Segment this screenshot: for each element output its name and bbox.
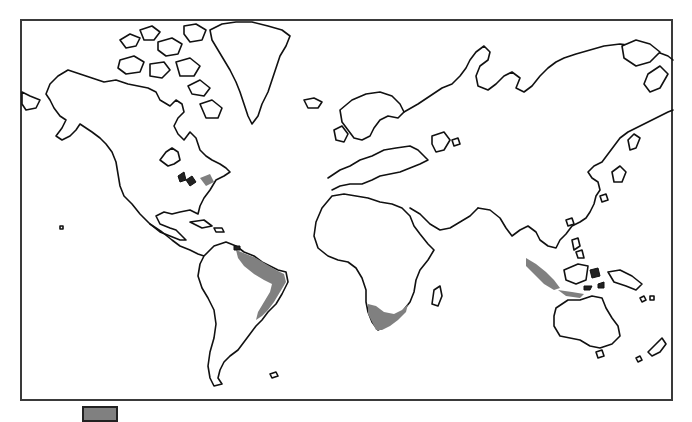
australia (554, 270, 666, 362)
asia (478, 40, 673, 248)
falkland-islands (270, 372, 278, 378)
pacific-islet (60, 226, 63, 229)
north-america (22, 22, 290, 240)
indonesia (526, 238, 604, 298)
africa (314, 194, 478, 330)
legend-swatch (82, 406, 118, 422)
south-america (198, 242, 288, 386)
